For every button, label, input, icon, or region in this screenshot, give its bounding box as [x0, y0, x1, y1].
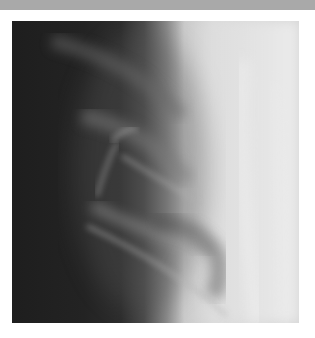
xray-image — [12, 21, 299, 323]
rib-structures — [12, 21, 299, 323]
top-bar — [0, 0, 315, 10]
